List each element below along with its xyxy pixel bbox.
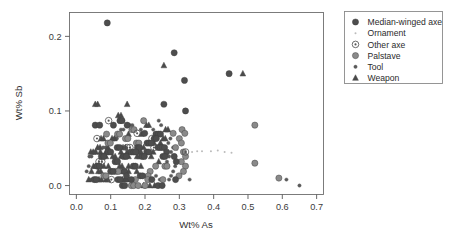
data-point (125, 135, 131, 141)
legend-marker-palstave-icon (352, 53, 358, 59)
data-point (159, 123, 162, 126)
data-point (110, 168, 116, 174)
point-circle-center (354, 43, 356, 45)
data-point (169, 137, 172, 140)
x-tick-label: 0.3 (173, 202, 186, 212)
data-point (161, 62, 167, 68)
data-point (182, 108, 188, 114)
data-point (152, 128, 155, 131)
legend-label: Median-winged axe (368, 17, 443, 27)
y-tick-label: 0.1 (49, 106, 62, 116)
legend-marker (352, 53, 358, 59)
data-point (172, 144, 178, 150)
data-point (231, 152, 233, 154)
data-point (178, 140, 184, 146)
point-circle-center (129, 146, 131, 148)
legend-marker (355, 32, 357, 34)
legend-label: Weapon (368, 73, 400, 83)
legend-label: Ornament (368, 28, 407, 38)
data-point (138, 163, 144, 169)
legend-marker (354, 65, 357, 68)
data-point (123, 153, 129, 159)
scatter-plot-figure: 0.00.10.20.30.40.50.60.7 0.00.10.2 Wt% A… (0, 0, 456, 237)
data-point (169, 174, 172, 177)
data-point (160, 176, 166, 182)
data-point (124, 101, 130, 107)
series-median-winged-axe (91, 20, 232, 189)
data-point (107, 140, 113, 146)
y-tick-label: 0.0 (49, 181, 62, 191)
data-point (119, 118, 125, 124)
legend-marker (352, 19, 358, 25)
x-tick-label: 0.1 (104, 202, 117, 212)
data-point (117, 176, 123, 182)
data-point (103, 131, 109, 137)
data-point (182, 130, 188, 136)
data-point (135, 182, 141, 188)
x-tick-label: 0.0 (70, 202, 83, 212)
data-point (141, 118, 147, 124)
point-circle-center (101, 161, 103, 163)
x-axis-title: Wt% As (179, 219, 213, 230)
data-point (140, 173, 146, 179)
data-point (191, 151, 193, 153)
data-point (149, 176, 155, 182)
data-point (110, 122, 116, 128)
y-tick-label: 0.2 (49, 32, 62, 42)
x-tick-label: 0.7 (310, 202, 323, 212)
chart-legend: Median-winged axeOrnamentOther axePalsta… (345, 12, 443, 84)
legend-marker-median-winged-axe-icon (352, 19, 358, 25)
data-point (172, 176, 178, 182)
data-point (170, 130, 176, 136)
x-tick-label: 0.5 (242, 202, 255, 212)
data-points-layer (85, 20, 301, 189)
data-point (224, 151, 226, 153)
data-point (167, 178, 170, 181)
data-point (101, 153, 107, 159)
data-point (226, 71, 232, 77)
data-point (159, 182, 165, 188)
legend-label: Tool (368, 62, 384, 72)
data-point (252, 122, 258, 128)
x-tick-label: 0.2 (139, 202, 152, 212)
x-tick-label: 0.4 (207, 202, 220, 212)
legend-label: Other axe (368, 40, 406, 50)
point-circle-center (136, 132, 138, 134)
data-point (161, 101, 167, 107)
data-point (142, 182, 148, 188)
data-point (171, 50, 177, 56)
point-circle-center (108, 120, 110, 122)
data-point (217, 149, 219, 151)
plot-canvas: 0.00.10.20.30.40.50.60.7 0.00.10.2 Wt% A… (0, 0, 456, 237)
data-point (89, 168, 95, 174)
data-point (108, 149, 114, 155)
legend-marker-tool-icon (354, 65, 357, 68)
data-point (153, 135, 159, 141)
data-point (142, 130, 148, 136)
data-point (171, 170, 174, 173)
data-point (173, 159, 179, 165)
x-axis-ticks: 0.00.10.20.30.40.50.60.7 (70, 195, 323, 213)
data-point (97, 122, 103, 128)
data-point (141, 153, 147, 159)
data-point (298, 184, 301, 187)
data-point (162, 153, 168, 159)
data-point (104, 20, 110, 26)
data-point (93, 176, 99, 182)
x-tick-label: 0.6 (276, 202, 289, 212)
data-point (124, 122, 130, 128)
y-axis-ticks: 0.00.10.2 (49, 32, 70, 191)
data-point (88, 155, 91, 158)
data-point (122, 182, 128, 188)
data-point (133, 149, 139, 155)
point-circle-center (153, 146, 155, 148)
data-point (252, 160, 258, 166)
data-point (154, 174, 157, 177)
data-point (153, 163, 159, 169)
data-point (196, 150, 198, 152)
data-point (201, 150, 203, 152)
data-point (285, 178, 288, 181)
point-circle-center (96, 138, 98, 140)
data-point (276, 175, 282, 181)
data-point (132, 163, 138, 169)
